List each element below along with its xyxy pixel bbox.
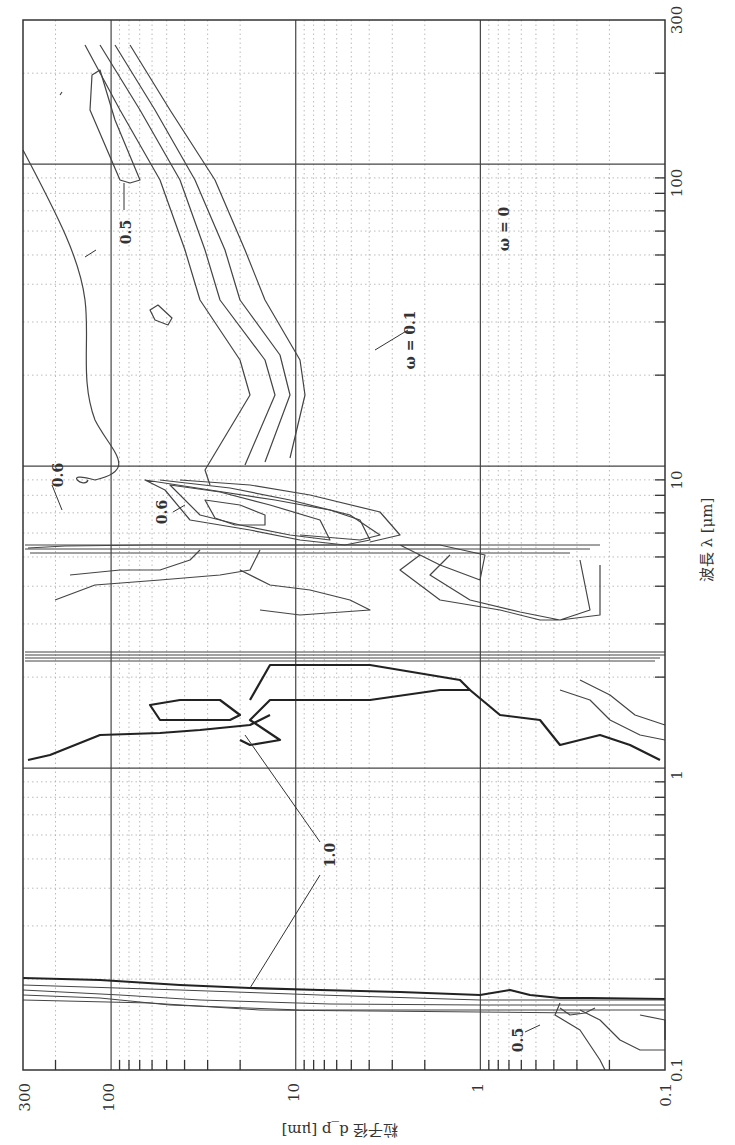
contour-lower-small (560, 1008, 595, 1015)
contour-label-omega-0.1: ω = 0.1 (402, 310, 418, 369)
y-tick-0.1: 0.1 (668, 1058, 686, 1082)
x-tick-0.1: 0.1 (657, 1083, 675, 1107)
y-tick-100: 100 (668, 169, 686, 198)
contour-left-mid-2 (70, 550, 200, 575)
contour-labels: 0.5 ω = 0.1 ω = 0 0.6 0.6 1.0 0.5 (50, 206, 526, 1052)
contour-blob (60, 92, 62, 95)
x-tick-300: 300 (16, 1083, 34, 1112)
y-tick-labels: 300 100 10 1 0.1 (668, 6, 686, 1082)
contour-label-0.6-mid: 0.6 (154, 500, 170, 524)
axis-ticks (56, 73, 665, 1070)
contour-0.8-band1 (115, 45, 290, 462)
contour-label-0.5-lower: 0.5 (510, 1028, 526, 1052)
contour-0.5-upper (23, 150, 119, 483)
contour-chart: 0.5 ω = 0.1 ω = 0 0.6 0.6 1.0 0.5 300 10… (0, 0, 735, 1145)
contour-mid-1 (240, 570, 370, 615)
contour-label-0.6-left: 0.6 (50, 463, 66, 487)
x-axis-title: 粒子径 d_p [μm] (282, 1121, 399, 1139)
x-tick-100: 100 (100, 1083, 118, 1112)
contour-1.0-loop (150, 700, 240, 720)
y-tick-1: 1 (668, 770, 686, 780)
contour-label-1.0: 1.0 (322, 843, 338, 868)
contour-0.1-band1 (130, 45, 305, 458)
contour-dense-band-2.8um (25, 652, 665, 661)
contour-lower-right (580, 1010, 665, 1050)
x-tick-10: 10 (285, 1083, 303, 1102)
y-tick-10: 10 (668, 470, 686, 489)
contour-right-lower (560, 680, 665, 740)
contour-0.6-band1 (85, 45, 250, 485)
contour-1.0-mid (240, 665, 470, 745)
contour-label-0.5-upper: 0.5 (118, 220, 134, 244)
x-tick-1: 1 (469, 1083, 487, 1093)
x-tick-labels: 300 100 10 1 0.1 (16, 1083, 675, 1112)
contour-right-waves (400, 555, 600, 620)
contour-label-omega-0: ω = 0 (496, 206, 512, 251)
contour-closed-small (90, 70, 140, 183)
y-tick-300: 300 (668, 6, 686, 35)
contour-1.0-left (28, 715, 270, 760)
contour-left-mid-1 (55, 550, 260, 600)
contour-island (150, 305, 172, 325)
contour-0.6-left (28, 545, 485, 580)
y-axis-title: 波長 λ [μm] (698, 498, 716, 583)
